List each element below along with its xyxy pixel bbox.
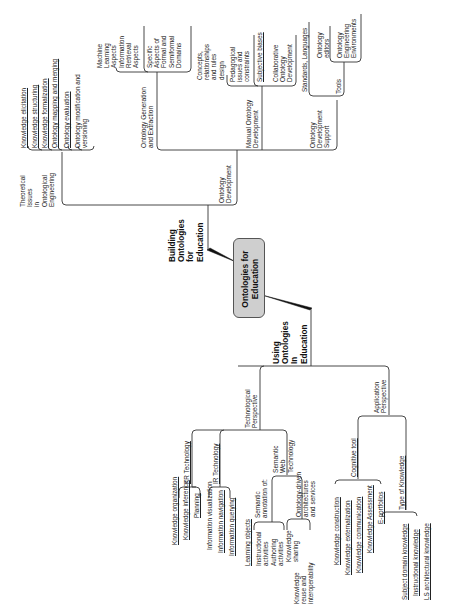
- type-of-knowledge-label: Type of Knowledge: [398, 456, 405, 510]
- building-ontologies-label: Building Ontologies for Education: [168, 219, 205, 262]
- services-bracket: [287, 519, 310, 530]
- tools-label: Tools: [335, 79, 342, 94]
- manual-development-label: Manual Ontology Development: [245, 100, 259, 148]
- knowledge-type-bracket: [382, 512, 417, 516]
- building-bracket: [62, 150, 237, 205]
- cognitive-item-0: Knowledge construction: [333, 497, 340, 565]
- kr-technology-label: KR Technology: [183, 441, 190, 484]
- center-to-using-wedge: [262, 295, 312, 310]
- tools-item-environments: Ontology Engineering Environments: [336, 19, 358, 58]
- ontology-generation-label: Ontology Generation and Extraction: [140, 87, 155, 148]
- ir-item-2: Information querying: [228, 498, 235, 556]
- center-node: Ontologies for Education: [233, 238, 265, 318]
- development-support-label: Ontology Development Support: [309, 110, 331, 148]
- generation-item-information-retrieval: Information Retrieval Aspects: [118, 36, 140, 68]
- cognitive-tool-label: Cognitive tool: [350, 438, 357, 477]
- technological-perspective-label: Technological Perspective: [244, 389, 258, 428]
- using-bracket: [238, 366, 389, 390]
- kr-item-1: Knowledge inference: [182, 480, 189, 540]
- theoretical-item-1: Knowledge structuring: [31, 85, 38, 148]
- ir-item-0: Information visualization: [206, 481, 213, 550]
- annotation-item-authoring: Authoring activities: [270, 539, 284, 566]
- annotation-item-instructional: Instructional activities: [255, 532, 269, 566]
- using-ontologies-label: Using Ontologies In Education: [272, 321, 309, 364]
- ir-connector: [220, 430, 224, 441]
- theoretical-item-3: Ontology mapping and merging: [51, 59, 58, 148]
- manual-item-concepts: Concepts, relationships and rules design: [196, 44, 225, 80]
- annotation-item-learning-objects: Learning objects: [244, 519, 251, 566]
- theoretical-item-5: Ontology modification and versioning: [74, 74, 88, 148]
- center-to-building-wedge: [207, 248, 236, 262]
- semantic-web-label: Semantic Web Technology: [272, 440, 294, 473]
- knowledge-type-item-1: Instructional knowledge: [412, 529, 419, 596]
- cognitive-item-1: Knowledge externalization: [344, 500, 351, 575]
- services-item-reuse: Knowledge reuse and interoperability: [293, 562, 315, 604]
- standards-languages-label: Standards, Languages: [301, 28, 308, 92]
- generation-item-specific-aspects: Specific Aspects of Formal and Semiforma…: [146, 36, 182, 68]
- ir-item-1: Information navigation: [217, 490, 224, 553]
- knowledge-type-item-2: LS architectural knowledge: [423, 523, 430, 600]
- center-node-title-line1: Ontologies for: [240, 250, 250, 307]
- theoretical-item-0: Knowledge elicitation: [20, 88, 27, 148]
- theoretical-issues-label: Theoretical Issues in Ontological Engine…: [19, 173, 55, 207]
- theoretical-item-4: Ontology evaluation: [63, 92, 70, 149]
- cognitive-item-4: E-portfolios: [377, 492, 384, 524]
- manual-item-collaborative: Collaborative Ontology Development: [272, 44, 294, 82]
- semantic-annotation-label: Semantic annotation of:: [254, 479, 268, 518]
- ontology-driven-services-label: Ontology-driven architectures and servic…: [295, 472, 317, 517]
- ir-technology-label: IR Technology: [212, 444, 219, 484]
- theoretical-item-2: Knowledge formalization: [41, 78, 48, 148]
- manual-item-subjective: Subjective biases: [256, 32, 263, 82]
- knowledge-type-item-0: Subject domain knowledge: [401, 524, 408, 600]
- kr-item-0: Knowledge organization: [171, 477, 178, 545]
- tools-item-editors: Ontology editors: [316, 32, 330, 58]
- services-item-sharing: Knowledge sharing: [285, 530, 299, 562]
- cognitive-bracket: [335, 480, 381, 484]
- generation-item-machine-learning: Machine Learning Aspects: [96, 43, 118, 68]
- manual-item-pedagogical: Pedagogical issues and constraints: [229, 47, 251, 82]
- ontology-development-label: Ontology Development: [218, 165, 232, 203]
- annotation-bracket: [254, 520, 284, 530]
- cognitive-item-3: Knowledge Assessment: [366, 485, 373, 553]
- cognitive-item-2: Knowledge communication: [355, 497, 362, 573]
- application-perspective-label: Application Perspective: [373, 380, 387, 413]
- kr-item-2: Planning: [193, 493, 200, 518]
- center-node-title-line2: Education: [250, 259, 260, 299]
